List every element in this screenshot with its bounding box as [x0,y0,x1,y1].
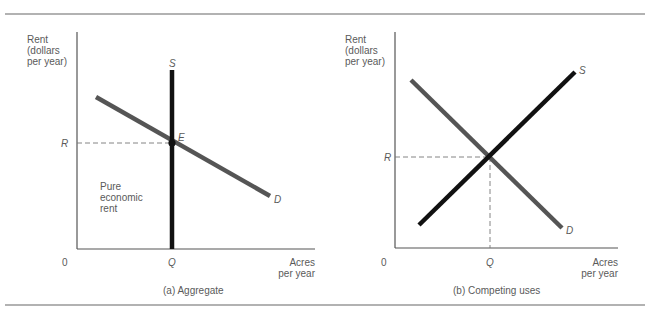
panel-b-supply-label: S [579,65,586,76]
panel-b-origin-label: 0 [381,257,387,268]
panel-a-q-tick-label: Q [168,257,176,268]
panel-b-supply-curve [419,72,575,225]
panel-a-equilibrium-label: E [178,132,185,143]
panel-a-pure-economic-rent-label: Pure economic rent [100,181,143,214]
panel-b-demand-label: D [566,225,573,236]
panel-a-caption: (a) Aggregate [163,285,224,296]
panel-a-supply-label: S [169,58,176,69]
panel-b-demand-curve [411,80,562,228]
panel-a-r-tick-label: R [61,138,68,149]
figure-canvas [0,0,650,318]
panel-a-demand-label: D [274,194,281,205]
panel-b-y-axis-label: Rent (dollars per year) [345,34,385,67]
panel-a-origin-label: 0 [62,257,68,268]
panel-b-caption: (b) Competing uses [453,285,540,296]
panel-a-equilibrium-point [168,139,175,146]
panel-b-x-axis-label: Acres per year [581,257,618,279]
panel-a-x-axis-label: Acres per year [278,257,315,279]
panel-b-q-tick-label: Q [486,257,494,268]
panel-a-plot [77,32,315,249]
panel-a-y-axis-label: Rent (dollars per year) [27,34,67,67]
panel-b-r-tick-label: R [384,152,391,163]
